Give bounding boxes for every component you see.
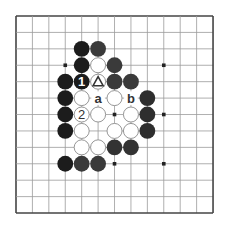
white-stone [74, 123, 89, 138]
white-stone [74, 91, 89, 106]
black-stone [57, 74, 73, 90]
white-stone [107, 123, 122, 138]
black-stone [57, 107, 73, 123]
star-point-icon [113, 162, 117, 166]
black-stone [57, 90, 73, 106]
white-stone [91, 107, 106, 122]
black-stone [90, 41, 106, 57]
point-label-a: a [94, 91, 102, 106]
move-number-label: 1 [78, 74, 85, 89]
black-stone [74, 156, 90, 172]
black-stone [90, 156, 106, 172]
black-stone [57, 123, 73, 139]
black-stone [123, 139, 139, 155]
black-stone [139, 123, 155, 139]
black-stone [107, 139, 123, 155]
black-stone [139, 107, 155, 123]
white-stone [107, 91, 122, 106]
star-point-icon [162, 63, 166, 67]
point-label-b: b [127, 91, 135, 106]
black-stone [74, 57, 90, 73]
white-stone [91, 58, 106, 73]
black-stone [123, 74, 139, 90]
black-stone [107, 57, 123, 73]
star-point-icon [63, 63, 67, 67]
star-point-icon [113, 113, 117, 117]
black-stone [74, 41, 90, 57]
white-stone [123, 107, 138, 122]
star-point-icon [162, 162, 166, 166]
white-stone [74, 140, 89, 155]
black-stone [57, 156, 73, 172]
move-number-label: 2 [78, 107, 85, 122]
white-stone [91, 140, 106, 155]
black-stone [139, 90, 155, 106]
go-board-diagram: ab12 [0, 0, 226, 225]
go-board: ab12 [0, 0, 226, 225]
black-stone [107, 74, 123, 90]
stones-layer [57, 41, 155, 172]
star-point-icon [162, 113, 166, 117]
white-stone [123, 123, 138, 138]
